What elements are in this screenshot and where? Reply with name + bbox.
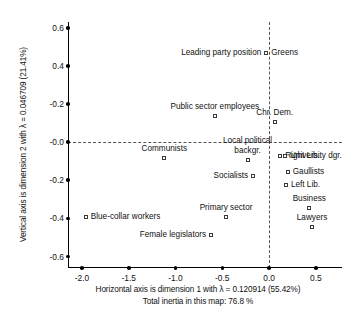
- data-point-marker: [286, 170, 290, 174]
- y-tick-label: -0.4: [50, 214, 64, 222]
- data-point-label: Leading party position: [181, 48, 261, 57]
- data-point-marker: [278, 154, 282, 158]
- y-tick-mark: [66, 102, 70, 106]
- data-point-label: Greens: [271, 48, 298, 57]
- data-point-marker: [162, 156, 166, 160]
- data-point-label: Communists: [142, 144, 188, 153]
- correspondence-analysis-scatter-plot: Vertical axis is dimension 2 with λ = 0.…: [0, 0, 360, 315]
- y-axis-line: [68, 22, 69, 268]
- data-point-marker: [224, 215, 228, 219]
- plot-area: 0.60.4-0.2-0.0-0.2-0.4-0.6 -2.0-1.5-1.0-…: [68, 22, 342, 268]
- total-inertia-caption: Total inertia in this map: 76.8 %: [48, 297, 348, 306]
- data-point-label: Chr. Dem.: [256, 108, 293, 117]
- data-point-label: Public sector employees: [170, 102, 259, 111]
- y-tick-label: -0.2: [50, 100, 64, 108]
- x-tick-label: -1.0: [168, 274, 182, 282]
- data-point-marker: [246, 158, 250, 162]
- data-point-marker: [264, 51, 268, 55]
- x-tick-mark: [221, 266, 225, 270]
- x-tick-label: 0.5: [310, 274, 322, 282]
- x-tick-mark: [267, 266, 271, 270]
- x-tick-label: 0.0: [263, 274, 275, 282]
- y-tick-mark: [66, 64, 70, 68]
- horizontal-zero-reference-line: [68, 142, 342, 143]
- data-point-marker: [283, 154, 287, 158]
- y-axis-title: Vertical axis is dimension 2 with λ = 0.…: [19, 15, 28, 275]
- data-point-marker: [251, 174, 255, 178]
- y-tick-label: -0.6: [50, 252, 64, 260]
- x-tick-label: -2.0: [75, 274, 89, 282]
- data-point-label: Lawyers: [297, 213, 328, 222]
- data-point-label: Female legislators: [140, 230, 206, 239]
- data-point-marker: [84, 215, 88, 219]
- data-point-marker: [213, 114, 217, 118]
- data-point-label: Business: [293, 194, 326, 203]
- y-tick-mark: [66, 255, 70, 259]
- y-tick-mark: [66, 26, 70, 30]
- x-tick-mark: [314, 266, 318, 270]
- y-tick-mark: [66, 178, 70, 182]
- y-tick-mark: [66, 140, 70, 144]
- data-point-label: Left Lib.: [291, 180, 320, 189]
- data-point-label: Local political backgr.: [223, 136, 272, 155]
- x-tick-mark: [174, 266, 178, 270]
- x-tick-mark: [127, 266, 131, 270]
- x-axis-line: [68, 267, 342, 268]
- y-tick-label: -0.0: [50, 138, 64, 146]
- data-point-marker: [310, 225, 314, 229]
- y-tick-label: 0.4: [52, 62, 64, 70]
- data-point-label: University dgr.: [290, 152, 342, 161]
- y-tick-label: 0.6: [52, 24, 64, 32]
- data-point-label: Socialists: [214, 171, 249, 180]
- data-point-marker: [209, 233, 213, 237]
- x-axis-title: Horizontal axis is dimension 1 with λ = …: [48, 285, 348, 294]
- x-tick-mark: [80, 266, 84, 270]
- data-point-label: Gaullists: [293, 167, 324, 176]
- x-tick-label: -1.5: [122, 274, 136, 282]
- x-tick-label: -0.5: [215, 274, 229, 282]
- data-point-marker: [273, 120, 277, 124]
- data-point-label: Blue-collar workers: [91, 213, 161, 222]
- y-tick-label: -0.2: [50, 176, 64, 184]
- data-point-label: Primary sector: [200, 203, 253, 212]
- data-point-marker: [307, 206, 311, 210]
- data-point-marker: [284, 183, 288, 187]
- y-tick-mark: [66, 217, 70, 221]
